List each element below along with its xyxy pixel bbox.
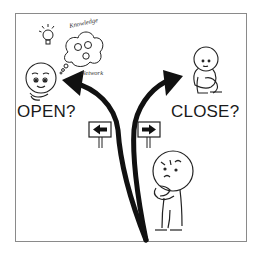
network-text: Network (81, 70, 103, 77)
lightbulb-icon (39, 24, 54, 44)
right-arrowhead-icon (163, 70, 183, 96)
forking-arrow-icon (74, 82, 165, 240)
thought-bubble-icon (60, 32, 103, 74)
smiling-person-icon (26, 63, 56, 100)
sitting-hugging-knees-person-icon (194, 47, 222, 93)
illustration-canvas (0, 0, 264, 258)
close-option-label: CLOSE? (171, 103, 239, 120)
right-arrow-sign-icon (138, 122, 160, 148)
thinking-person-icon (153, 151, 193, 230)
open-option-label: OPEN? (17, 103, 76, 120)
left-arrow-sign-icon (89, 122, 111, 148)
